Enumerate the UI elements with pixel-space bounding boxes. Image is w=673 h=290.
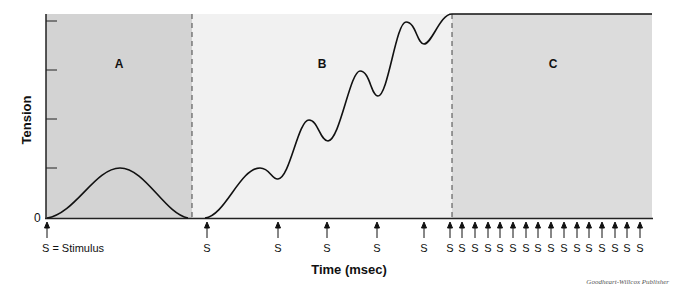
stimulus-label: S	[585, 242, 592, 254]
stimulus-label: S	[203, 242, 210, 254]
region-c-background	[452, 14, 652, 218]
x-axis-label: Time (msec)	[311, 262, 387, 277]
region-b-background	[192, 14, 452, 218]
region-a-label: A	[115, 57, 124, 71]
stimulus-label: S	[446, 242, 453, 254]
stimulus-label: S	[274, 242, 281, 254]
stimulus-label: S	[458, 242, 465, 254]
stimulus-label: S	[560, 242, 567, 254]
stimulus-label: S	[547, 242, 554, 254]
stimulus-label: S	[323, 242, 330, 254]
stimulus-label: S	[598, 242, 605, 254]
y-axis-label: Tension	[19, 96, 34, 145]
region-b-label: B	[318, 57, 327, 71]
stimulus-arrows	[45, 222, 643, 238]
stimulus-label: S	[420, 242, 427, 254]
region-a-background	[46, 14, 192, 218]
stimulus-label: S	[484, 242, 491, 254]
stimulus-legend: S = Stimulus	[42, 242, 104, 254]
stimulus-label: S	[496, 242, 503, 254]
stimulus-label: S	[534, 242, 541, 254]
stimulus-label: S	[373, 242, 380, 254]
stimulus-label: S	[509, 242, 516, 254]
stimulus-label: S	[636, 242, 643, 254]
y-zero-label: 0	[34, 211, 41, 225]
stimulus-label: S	[471, 242, 478, 254]
stimulus-label: S	[611, 242, 618, 254]
stimulus-label: S	[573, 242, 580, 254]
publisher-credit: Goodheart-Willcox Publisher	[586, 278, 669, 286]
stimulus-label: S	[522, 242, 529, 254]
region-c-label: C	[549, 57, 558, 71]
stimulus-label: S	[623, 242, 630, 254]
